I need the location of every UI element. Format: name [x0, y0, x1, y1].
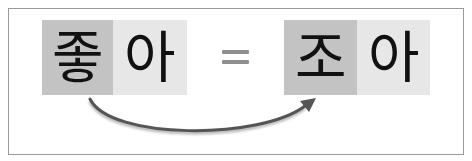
curved-arrow-icon	[0, 0, 472, 161]
